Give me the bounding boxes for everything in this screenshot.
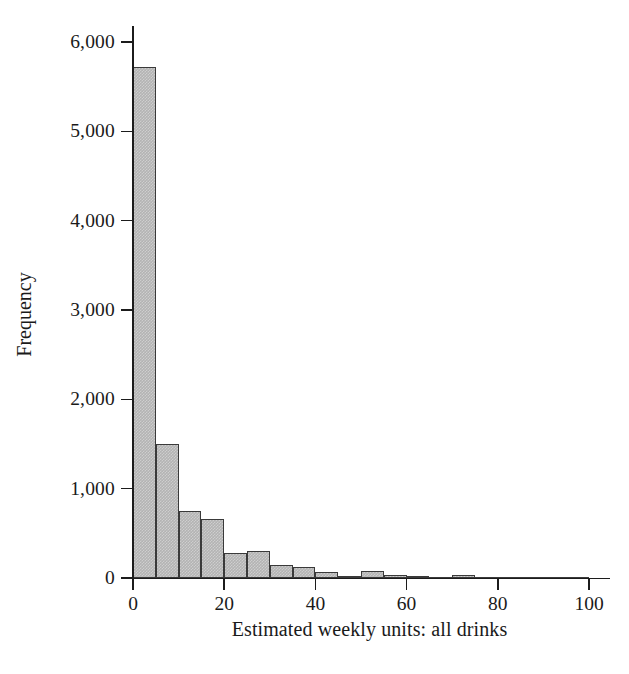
y-axis-tick-label: 4,000 bbox=[45, 210, 115, 232]
histogram-bar bbox=[224, 553, 247, 578]
histogram-bar bbox=[179, 511, 202, 578]
histogram-bar bbox=[156, 444, 179, 578]
x-axis-tick-label: 20 bbox=[194, 593, 254, 615]
y-axis-tick bbox=[121, 577, 133, 579]
x-axis-tick-label: 80 bbox=[468, 593, 528, 615]
y-axis-tick-label: 6,000 bbox=[45, 31, 115, 53]
x-axis-tick-label: 0 bbox=[103, 593, 163, 615]
y-axis-tick bbox=[121, 309, 133, 311]
x-axis-tick-label: 60 bbox=[377, 593, 437, 615]
y-axis-tick bbox=[121, 41, 133, 43]
histogram-bar bbox=[133, 67, 156, 578]
x-axis-tick bbox=[132, 578, 134, 590]
x-axis-title-text: Estimated weekly units: all drinks bbox=[122, 618, 508, 641]
y-axis-tick-label: 3,000 bbox=[45, 299, 115, 321]
x-axis-tick bbox=[588, 578, 590, 590]
x-axis-tick bbox=[406, 578, 408, 590]
histogram-bar bbox=[247, 551, 270, 578]
histogram-bar bbox=[270, 565, 293, 578]
y-axis-tick-label: 2,000 bbox=[45, 388, 115, 410]
x-axis-tick-label: 100 bbox=[559, 593, 619, 615]
histogram-bar bbox=[293, 567, 316, 578]
histogram-bar bbox=[201, 519, 224, 578]
y-axis-title: Frequency bbox=[13, 195, 36, 435]
y-axis-tick bbox=[121, 131, 133, 133]
y-axis-tick bbox=[121, 488, 133, 490]
x-axis-tick-label: 40 bbox=[285, 593, 345, 615]
y-axis-tick-label: 0 bbox=[45, 567, 115, 589]
y-axis-tick-label: 5,000 bbox=[45, 120, 115, 142]
x-axis-tick bbox=[223, 578, 225, 590]
y-axis-tick-label: 1,000 bbox=[45, 478, 115, 500]
x-axis-tick bbox=[315, 578, 317, 590]
plot-area: 01,0002,0003,0004,0005,0006,000 02040608… bbox=[0, 0, 629, 674]
y-axis-tick bbox=[121, 399, 133, 401]
histogram-figure: 01,0002,0003,0004,0005,0006,000 02040608… bbox=[0, 0, 629, 674]
y-axis-line bbox=[132, 26, 134, 579]
x-axis-title: Estimated weekly units: all drinks bbox=[0, 618, 629, 641]
x-axis-line bbox=[132, 578, 610, 580]
y-axis-tick bbox=[121, 220, 133, 222]
x-axis-tick bbox=[497, 578, 499, 590]
